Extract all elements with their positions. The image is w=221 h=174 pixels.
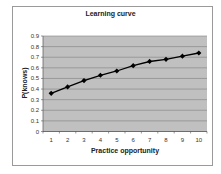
y-tick-label: 0.4 <box>31 86 40 92</box>
x-tick-label: 7 <box>148 137 152 143</box>
x-tick-label: 4 <box>99 137 103 143</box>
x-tick-label: 5 <box>115 137 119 143</box>
y-tick-label: 0.5 <box>31 75 40 81</box>
y-tick-label: 0.7 <box>31 54 40 60</box>
x-tick-label: 9 <box>181 137 185 143</box>
y-tick-label: 0.9 <box>31 33 40 39</box>
plot-background <box>43 36 207 132</box>
plot-area: 00.10.20.30.40.50.60.70.80.912345678910 <box>0 0 221 174</box>
y-tick-label: 0 <box>36 129 40 135</box>
x-tick-label: 3 <box>82 137 86 143</box>
x-tick-label: 1 <box>50 137 54 143</box>
y-tick-label: 0.2 <box>31 107 40 113</box>
x-tick-label: 10 <box>195 137 202 143</box>
y-tick-label: 0.1 <box>31 118 40 124</box>
x-tick-label: 8 <box>164 137 168 143</box>
y-tick-label: 0.8 <box>31 44 40 50</box>
y-tick-label: 0.3 <box>31 97 40 103</box>
x-tick-label: 2 <box>66 137 70 143</box>
y-tick-label: 0.6 <box>31 65 40 71</box>
x-tick-label: 6 <box>132 137 136 143</box>
